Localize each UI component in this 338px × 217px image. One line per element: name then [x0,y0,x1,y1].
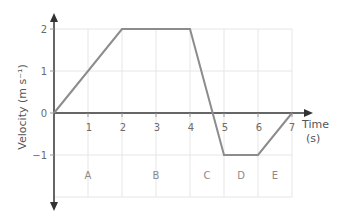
velocity-line [54,29,292,155]
x-tick-label: 2 [120,122,126,133]
velocity-time-chart: 210−11234567ABCDETime(s)Velocity (m s⁻¹) [0,0,338,217]
y-axis-down-arrow-icon [50,202,58,211]
x-tick-label: 4 [188,122,194,133]
region-label-e: E [272,170,278,181]
y-tick-label: 1 [41,66,47,77]
y-tick-label: −1 [32,150,47,161]
region-label-a: A [85,170,92,181]
x-axis-unit: (s) [306,132,320,145]
region-label-b: B [153,170,160,181]
x-tick-label: 7 [289,122,295,133]
x-tick-label: 3 [154,122,160,133]
y-axis-up-arrow-icon [50,13,58,22]
x-axis-title: Time [301,118,329,131]
x-tick-label: 5 [222,122,228,133]
region-label-c: C [204,170,211,181]
y-tick-label: 0 [41,108,47,119]
y-axis-title: Velocity (m s⁻¹) [16,64,29,149]
x-tick-label: 1 [86,122,92,133]
y-tick-label: 2 [41,24,47,35]
region-label-d: D [237,170,245,181]
x-axis-arrow-icon [304,109,313,117]
x-tick-label: 6 [256,122,262,133]
